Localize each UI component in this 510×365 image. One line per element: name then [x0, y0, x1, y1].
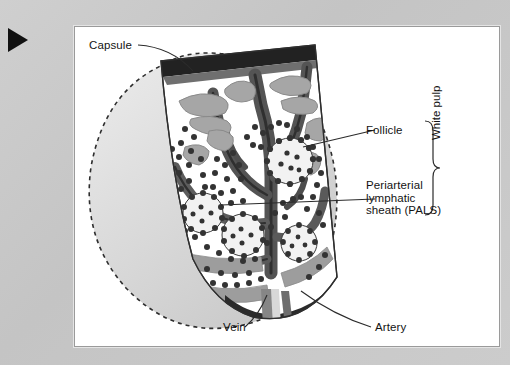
label-follicle: Follicle	[366, 124, 403, 137]
label-white-pulp: White pulp	[430, 86, 442, 140]
play-triangle-icon[interactable]	[8, 28, 28, 52]
label-pals-line2: lymphatic	[366, 192, 458, 205]
label-capsule: Capsule	[89, 39, 132, 52]
label-pals-line1: Periarterial	[366, 179, 458, 192]
label-pals: Periarterial lymphatic sheath (PALS)	[366, 179, 458, 217]
diagram-panel: Capsule Follicle Periarterial lymphatic …	[74, 26, 500, 347]
label-vein: Vein	[223, 321, 246, 334]
figure-stage: Capsule Follicle Periarterial lymphatic …	[0, 0, 510, 365]
label-artery: Artery	[375, 321, 406, 334]
label-pals-line3: sheath (PALS)	[366, 204, 458, 217]
